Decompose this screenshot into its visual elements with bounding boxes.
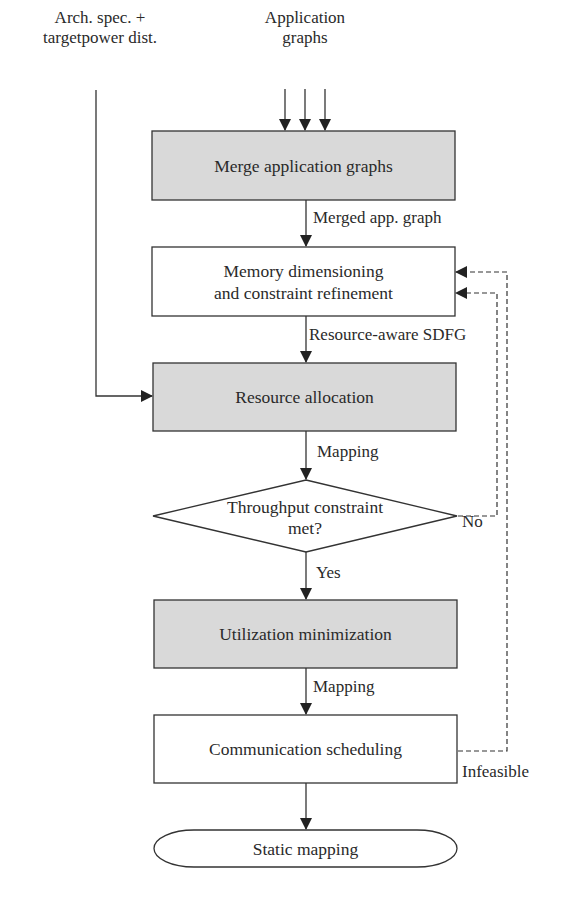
arch-spec-line2: targetpower dist.: [25, 28, 175, 48]
app-graphs-line2: graphs: [240, 28, 370, 48]
memory-line1: Memory dimensioning: [224, 260, 384, 282]
decision-line1: Throughput constraint: [227, 497, 383, 518]
memory-label: Memory dimensioning and constraint refin…: [152, 247, 455, 316]
edge-label-mapping-1: Mapping: [317, 442, 378, 462]
arch-spec-line1: Arch. spec. +: [25, 8, 175, 28]
output-label: Static mapping: [154, 830, 457, 867]
app-graphs-label: Application graphs: [240, 8, 370, 48]
utilization-label: Utilization minimization: [154, 600, 457, 668]
resource-label: Resource allocation: [153, 363, 456, 431]
memory-line2: and constraint refinement: [214, 282, 393, 304]
communication-label: Communication scheduling: [154, 715, 457, 783]
edge-label-merged-graph: Merged app. graph: [313, 208, 442, 228]
input-arrows: [285, 89, 325, 130]
app-graphs-line1: Application: [240, 8, 370, 28]
edge-label-resource-sdfg: Resource-aware SDFG: [309, 325, 466, 345]
decision-line2: met?: [288, 518, 322, 539]
edge-archspec-resource: [96, 90, 152, 396]
edge-label-yes: Yes: [316, 563, 341, 583]
merge-label: Merge application graphs: [152, 131, 455, 200]
edge-label-infeasible: Infeasible: [462, 762, 529, 782]
arch-spec-label: Arch. spec. + targetpower dist.: [25, 8, 175, 48]
decision-label: Throughput constraint met?: [153, 490, 457, 546]
edge-label-no: No: [462, 512, 483, 532]
edge-label-mapping-2: Mapping: [313, 677, 374, 697]
